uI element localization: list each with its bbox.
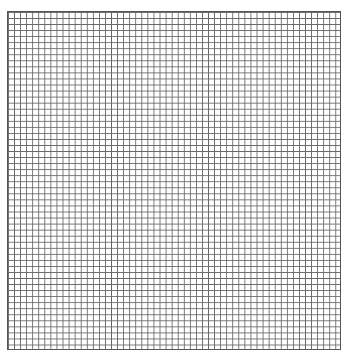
grid-canvas (7, 11, 341, 350)
